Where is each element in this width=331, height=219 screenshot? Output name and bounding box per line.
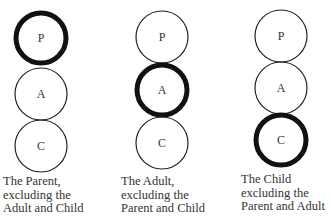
caption-adult: The Adult, excluding the Parent and Chil…: [121, 175, 205, 216]
adult-circle-label: A: [37, 87, 46, 101]
caption-line: excluding the: [241, 187, 325, 201]
adult-circle-label: A: [277, 81, 286, 95]
caption-parent: The Parent, excluding the Adult and Chil…: [3, 175, 84, 216]
child-circle-label: C: [37, 139, 45, 153]
caption-line: The Child: [241, 173, 325, 187]
panel-parent: P A C: [15, 13, 67, 172]
caption-line: excluding the: [3, 189, 84, 203]
caption-child: The Child excluding the Parent and Adult: [241, 173, 325, 214]
caption-line: excluding the: [121, 189, 205, 203]
child-circle-label: C: [158, 136, 166, 150]
panel-adult: P A C: [136, 11, 188, 169]
caption-line: Adult and Child: [3, 202, 84, 216]
adult-circle-label: A: [158, 83, 167, 97]
parent-circle-label: P: [38, 31, 45, 45]
caption-line: The Parent,: [3, 175, 84, 189]
caption-line: Parent and Child: [121, 202, 205, 216]
caption-line: The Adult,: [121, 175, 205, 189]
panel-child: P A C: [255, 10, 307, 165]
child-circle-label: C: [277, 133, 285, 147]
caption-line: Parent and Adult: [241, 200, 325, 214]
parent-circle-label: P: [278, 29, 285, 43]
parent-circle-label: P: [159, 30, 166, 44]
